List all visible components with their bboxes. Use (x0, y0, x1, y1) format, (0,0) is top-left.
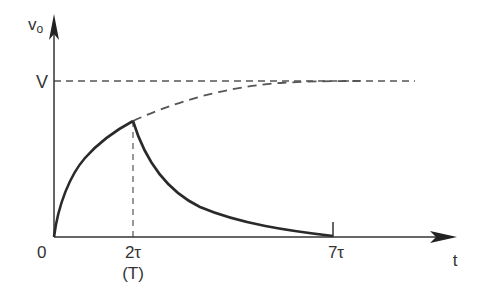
x-axis-label: t (453, 251, 458, 270)
level-label-v: V (36, 72, 48, 92)
y-axis-label: vo (28, 15, 44, 36)
switch-time-label: 2τ (125, 243, 141, 262)
charging-curve (54, 121, 133, 237)
switch-time-alias-label: (T) (122, 264, 144, 283)
end-time-label: 7τ (328, 243, 344, 262)
discharging-curve (133, 121, 333, 236)
origin-label: 0 (37, 243, 46, 262)
waveform-diagram: vo V 0 2τ (T) 7τ t (0, 0, 479, 301)
charging-continuation-dashed-curve (133, 81, 360, 121)
